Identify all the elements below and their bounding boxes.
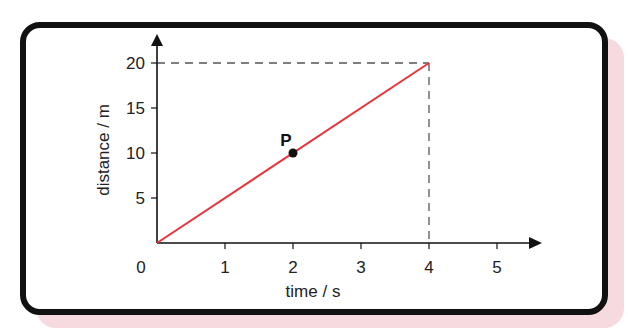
distance-time-chart: 20 15 10 5 0 1 2 3 4 5 time / s distance…	[0, 0, 628, 331]
x-tick-label: 4	[424, 258, 433, 277]
y-tick-label: 10	[126, 144, 145, 163]
point-p-label: P	[280, 131, 291, 150]
x-tick-label: 0	[136, 258, 145, 277]
y-axis-title: distance / m	[94, 104, 113, 196]
x-axis-arrow-icon	[529, 237, 542, 249]
x-tick-label: 2	[288, 258, 297, 277]
y-tick-label: 15	[126, 99, 145, 118]
x-tick-label: 5	[492, 258, 501, 277]
y-tick-label: 5	[136, 189, 145, 208]
y-tick-label: 20	[126, 54, 145, 73]
y-ticks	[151, 63, 157, 198]
y-axis-arrow-icon	[151, 34, 163, 46]
x-axis-title: time / s	[286, 282, 341, 301]
x-ticks	[225, 243, 497, 249]
x-tick-label: 3	[356, 258, 365, 277]
x-tick-label: 1	[220, 258, 229, 277]
